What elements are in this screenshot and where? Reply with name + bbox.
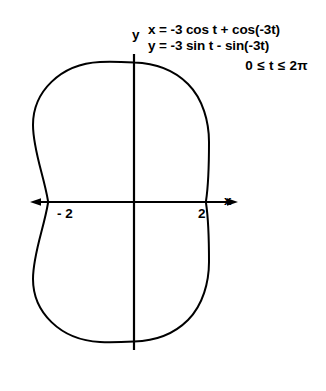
curve-upper-lobe xyxy=(33,62,209,201)
curve-lower-lobe xyxy=(33,203,209,342)
y-equation-text: y = -3 sin t - sin(-3t) xyxy=(148,38,326,54)
parameter-range-text: 0 ≤ t ≤ 2π xyxy=(148,53,326,74)
x-axis-label: x xyxy=(224,194,232,208)
parametric-plot-figure: x = -3 cos t + cos(-3t) y = -3 sin t - s… xyxy=(0,0,326,391)
x-axis-left-arrowhead xyxy=(30,198,41,206)
x-tick-label-positive-2: 2 xyxy=(198,207,206,221)
x-equation-text: x = -3 cos t + cos(-3t) xyxy=(148,22,326,38)
equation-annotation-block: x = -3 cos t + cos(-3t) y = -3 sin t - s… xyxy=(148,22,326,74)
y-axis-label: y xyxy=(132,28,140,42)
x-tick-label-negative-2: - 2 xyxy=(57,207,73,221)
